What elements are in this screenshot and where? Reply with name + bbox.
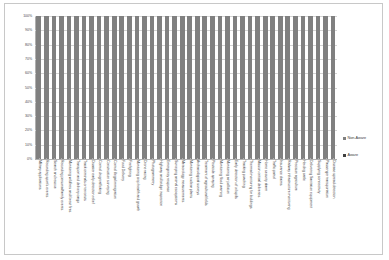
bar-segment-non-aware[interactable] — [218, 16, 223, 159]
bar-segment-non-aware[interactable] — [67, 16, 72, 159]
bar-column[interactable] — [299, 16, 307, 159]
bar-segment-non-aware[interactable] — [278, 16, 283, 159]
bar-column[interactable] — [193, 16, 201, 159]
bar-segment-non-aware[interactable] — [225, 16, 230, 159]
x-axis-tick-label: Monitoring air pollution — [226, 160, 230, 194]
bar-segment-non-aware[interactable] — [187, 16, 192, 159]
bar-column[interactable] — [126, 16, 134, 159]
bar-column[interactable] — [43, 16, 51, 159]
bar-column[interactable] — [65, 16, 73, 159]
bar-segment-non-aware[interactable] — [112, 16, 117, 159]
legend-item[interactable]: Aware — [343, 153, 387, 157]
bar-segment-non-aware[interactable] — [89, 16, 94, 159]
bar-column[interactable] — [35, 16, 43, 159]
bar-column[interactable] — [118, 16, 126, 159]
bar-segment-non-aware[interactable] — [255, 16, 260, 159]
x-axis-tick-label: Food Delivery — [120, 160, 124, 181]
x-axis-tick-label: Recording sport's events — [45, 160, 49, 197]
bar-segment-non-aware[interactable] — [36, 16, 41, 159]
x-axis-tick-label: Meteorology measurements — [180, 160, 184, 202]
x-axis-label-slot: Recording sport's events — [43, 160, 51, 252]
bar-segment-non-aware[interactable] — [104, 16, 109, 159]
bar-segment-non-aware[interactable] — [293, 16, 298, 159]
bar-segment-non-aware[interactable] — [44, 16, 49, 159]
bar-segment-non-aware[interactable] — [52, 16, 57, 159]
bar-column[interactable] — [254, 16, 262, 159]
bar-column[interactable] — [277, 16, 285, 159]
bar-column[interactable] — [314, 16, 322, 159]
bar-column[interactable] — [186, 16, 194, 159]
bar-column[interactable] — [133, 16, 141, 159]
bar-segment-non-aware[interactable] — [82, 16, 87, 159]
bar-segment-non-aware[interactable] — [195, 16, 200, 159]
bar-segment-non-aware[interactable] — [308, 16, 313, 159]
x-axis-tick-label: Mission critical deliveries — [256, 160, 260, 197]
bar-column[interactable] — [156, 16, 164, 159]
legend-item[interactable]: Non-Aware — [343, 136, 387, 140]
x-axis-label-slot: Tracking poaching — [239, 160, 247, 252]
x-axis-tick-label: Emergency response — [165, 160, 169, 192]
bar-column[interactable] — [88, 16, 96, 159]
bar-column[interactable] — [284, 16, 292, 159]
bar-column[interactable] — [80, 16, 88, 159]
x-axis-label-slot: Control drug trafficking — [95, 160, 103, 252]
x-axis-label-slot: Military applications — [35, 160, 43, 252]
bar-column[interactable] — [239, 16, 247, 159]
bar-column[interactable] — [231, 16, 239, 159]
bar-segment-non-aware[interactable] — [263, 16, 268, 159]
bar-segment-non-aware[interactable] — [59, 16, 64, 159]
bar-column[interactable] — [58, 16, 66, 159]
bar-column[interactable] — [329, 16, 337, 159]
bar-column[interactable] — [216, 16, 224, 159]
x-axis-label-slot: Track criminals or terrorists — [80, 160, 88, 252]
bar-segment-non-aware[interactable] — [285, 16, 290, 159]
bar-column[interactable] — [322, 16, 330, 159]
bar-segment-non-aware[interactable] — [316, 16, 321, 159]
bar-segment-non-aware[interactable] — [248, 16, 253, 159]
bar-column[interactable] — [95, 16, 103, 159]
bar-segment-non-aware[interactable] — [270, 16, 275, 159]
x-axis-label-slot: Home security alarm — [261, 160, 269, 252]
bar-column[interactable] — [148, 16, 156, 159]
bar-column[interactable] — [141, 16, 149, 159]
bar-column[interactable] — [110, 16, 118, 159]
bar-column[interactable] — [103, 16, 111, 159]
bar-segment-non-aware[interactable] — [233, 16, 238, 159]
bar-column[interactable] — [201, 16, 209, 159]
x-axis-label-slot: Supplying connectivity — [314, 160, 322, 252]
bar-column[interactable] — [50, 16, 58, 159]
bar-column[interactable] — [292, 16, 300, 159]
bar-segment-non-aware[interactable] — [331, 16, 336, 159]
bar-segment-non-aware[interactable] — [127, 16, 132, 159]
bar-segment-non-aware[interactable] — [119, 16, 124, 159]
bar-segment-non-aware[interactable] — [210, 16, 215, 159]
x-axis-tick-label: Construction surveying — [105, 160, 109, 195]
x-axis-label-slot: Monitoring crop health and growth — [133, 160, 141, 252]
bar-column[interactable] — [307, 16, 315, 159]
bar-segment-non-aware[interactable] — [323, 16, 328, 159]
bar-segment-non-aware[interactable] — [142, 16, 147, 159]
bar-column[interactable] — [224, 16, 232, 159]
bar-segment-non-aware[interactable] — [97, 16, 102, 159]
bar-column[interactable] — [246, 16, 254, 159]
bar-segment-non-aware[interactable] — [180, 16, 185, 159]
bar-column[interactable] — [171, 16, 179, 159]
bar-segment-non-aware[interactable] — [74, 16, 79, 159]
bar-segment-non-aware[interactable] — [150, 16, 155, 159]
bar-column[interactable] — [261, 16, 269, 159]
bar-segment-non-aware[interactable] — [172, 16, 177, 159]
bar-column[interactable] — [73, 16, 81, 159]
bar-segment-non-aware[interactable] — [157, 16, 162, 159]
bar-segment-non-aware[interactable] — [135, 16, 140, 159]
bar-segment-non-aware[interactable] — [301, 16, 306, 159]
x-axis-tick-label: Search and rescue — [52, 160, 56, 189]
legend-item-label: Aware — [348, 153, 358, 157]
bar-segment-non-aware[interactable] — [165, 16, 170, 159]
bar-segment-non-aware[interactable] — [240, 16, 245, 159]
x-axis-tick-label: Recording personal/family events — [60, 160, 64, 210]
bar-column[interactable] — [269, 16, 277, 159]
bar-column[interactable] — [163, 16, 171, 159]
bar-column[interactable] — [178, 16, 186, 159]
bar-segment-non-aware[interactable] — [202, 16, 207, 159]
bar-column[interactable] — [209, 16, 217, 159]
